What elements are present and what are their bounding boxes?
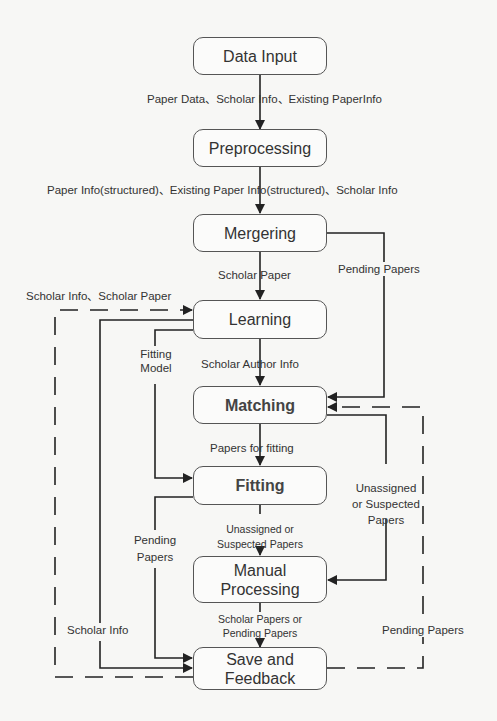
edge-label-save-matching: Pending Papers — [380, 623, 466, 637]
node-save-feedback: Save and Feedback — [193, 647, 327, 690]
edge-label-input-preprocessing: Paper Data、Scholar Info、Existing PaperIn… — [147, 92, 382, 106]
node-label: Matching — [225, 396, 295, 415]
edge-label-mergering-learning: Scholar Paper — [218, 268, 291, 282]
node-label-line1: Save and — [226, 650, 294, 669]
node-mergering: Mergering — [193, 214, 327, 252]
node-preprocessing: Preprocessing — [193, 129, 327, 167]
edge-label-mergering-matching: Pending Papers — [338, 262, 420, 276]
edge-matching-manual-b — [328, 519, 386, 580]
flowchart-diagram: Data Input Preprocessing Mergering Learn… — [0, 0, 497, 721]
edge-label-fitting-model: Fitting Model — [134, 347, 178, 375]
node-label: Preprocessing — [209, 139, 311, 158]
edge-label-matching-manual: Unassigned or Suspected Papers — [352, 480, 420, 528]
node-label: Mergering — [224, 224, 296, 243]
edge-label-matching-fitting: Papers for fitting — [210, 441, 294, 455]
edge-learning-fitting-a — [155, 330, 193, 346]
node-label: Fitting — [236, 476, 285, 495]
edge-label-preprocessing-mergering: Paper Info(structured)、Existing Paper In… — [47, 183, 398, 197]
node-label: Learning — [229, 310, 291, 329]
node-label: Data Input — [223, 47, 297, 66]
node-data-input: Data Input — [193, 37, 327, 75]
node-learning: Learning — [193, 300, 327, 339]
node-label-line1: Manual — [234, 561, 286, 580]
node-matching: Matching — [193, 386, 327, 424]
edge-label-fitting-manual: Unassigned or Suspected Papers — [210, 522, 310, 552]
node-manual-processing: Manual Processing — [193, 556, 327, 603]
edge-learning-save-b — [100, 641, 192, 668]
node-label-line2: Feedback — [225, 669, 295, 688]
node-fitting: Fitting — [193, 466, 327, 505]
edge-label-save-learning: Scholar Info、Scholar Paper — [26, 289, 171, 303]
edge-mergering-matching — [327, 233, 384, 397]
edge-fitting-save-b — [155, 568, 192, 658]
node-label-line2: Processing — [220, 580, 299, 599]
edge-label-scholar-info: Scholar Info — [67, 623, 128, 637]
edge-fitting-save-a — [155, 497, 193, 530]
edge-learning-fitting-b — [155, 384, 192, 478]
edge-label-learning-matching: Scholar Author Info — [201, 357, 299, 371]
edge-matching-manual-a — [327, 415, 386, 464]
edge-label-manual-save: Scholar Papers or Pending Papers — [208, 612, 312, 640]
edge-label-fitting-save: Pending Papers — [130, 532, 180, 566]
